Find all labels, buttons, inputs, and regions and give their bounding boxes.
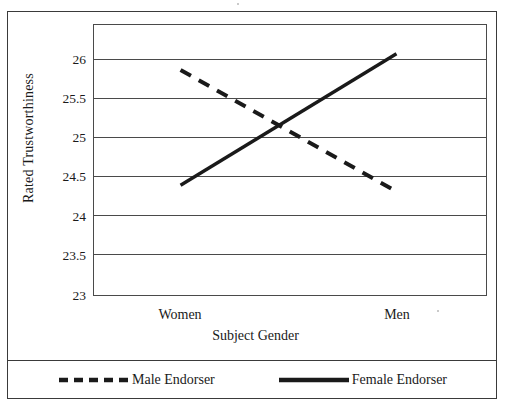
legend-item-female-endorser: Female Endorser	[277, 372, 447, 388]
chart-legend: Male Endorser Female Endorser	[8, 361, 496, 398]
legend-swatch-solid-icon	[277, 374, 351, 386]
y-tick-label: 25	[73, 131, 87, 145]
plot-area	[93, 24, 487, 296]
series-line-male-endorser	[181, 70, 397, 192]
legend-label-female-endorser: Female Endorser	[352, 372, 447, 388]
x-tick-label-women: Women	[158, 307, 201, 323]
scan-speck	[437, 310, 439, 312]
y-axis-title: Rated Trustworthiness	[21, 33, 37, 243]
y-tick-label: 24	[73, 210, 87, 224]
series-line-female-endorser	[181, 54, 397, 185]
legend-item-male-endorser: Male Endorser	[57, 372, 215, 388]
y-tick-label: 26	[73, 53, 87, 67]
scan-speck	[237, 3, 239, 5]
x-axis-title-wrap: Subject Gender	[0, 328, 507, 344]
x-tick-label-men: Men	[384, 307, 410, 323]
series-overlay	[94, 25, 486, 295]
legend-swatch-dashed-icon	[57, 374, 131, 386]
y-tick-label: 23.5	[62, 249, 86, 263]
legend-label-male-endorser: Male Endorser	[132, 372, 215, 388]
figure-root: Rated Trustworthiness 26 25.5 25 24.5 24…	[0, 0, 507, 410]
y-tick-label: 23	[73, 289, 87, 303]
y-tick-label: 24.5	[62, 170, 86, 184]
x-axis-title: Subject Gender	[212, 328, 299, 344]
y-tick-label: 25.5	[62, 92, 86, 106]
y-axis-tick-labels: 26 25.5 25 24.5 24 23.5 23	[40, 24, 86, 296]
